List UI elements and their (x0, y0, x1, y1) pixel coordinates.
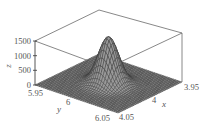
y-tick-label-6: 6 (66, 97, 70, 107)
surface-plot: 1500 1000 500 0 z 5.95 6 6.05 y 4.05 4 3… (0, 0, 204, 130)
z-axis: 1500 1000 500 0 z (3, 36, 37, 90)
y-axis-label: y (56, 104, 61, 114)
x-tick-label-4: 4 (152, 95, 157, 105)
surface-mesh (35, 37, 182, 113)
z-tick-label-1500: 1500 (14, 36, 31, 46)
x-tick-label-3.95: 3.95 (184, 82, 199, 92)
z-tick-label-1000: 1000 (14, 51, 31, 61)
y-tick-label-5.95: 5.95 (28, 88, 43, 98)
box-back-diagonal-right (112, 33, 182, 66)
z-axis-label: z (3, 64, 13, 69)
z-tick-label-500: 500 (18, 65, 31, 75)
x-tick-label-4.05: 4.05 (119, 112, 134, 122)
y-tick-label-6.05: 6.05 (95, 113, 110, 123)
x-axis-label: x (161, 99, 166, 109)
